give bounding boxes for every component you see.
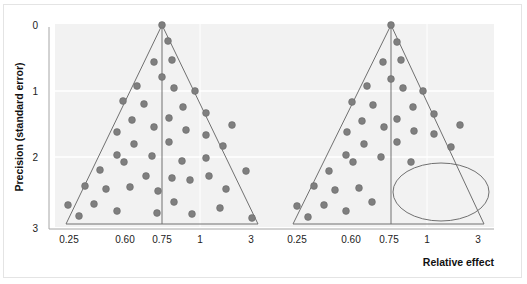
funnel-plot-chart: 0123 0.250.600.75130.250.600.7513 Precis… xyxy=(0,0,527,284)
study-point xyxy=(143,173,150,180)
x-tick-label: 0.75 xyxy=(152,234,172,245)
x-tick-label: 3 xyxy=(248,234,254,245)
y-axis: 0123 xyxy=(32,20,49,234)
study-point xyxy=(171,85,178,92)
study-point xyxy=(326,168,333,175)
study-point xyxy=(127,184,134,191)
study-point xyxy=(398,57,405,64)
study-point xyxy=(431,111,438,118)
study-point xyxy=(370,102,377,109)
plot-area xyxy=(55,24,494,227)
study-point xyxy=(192,88,199,95)
study-point xyxy=(431,131,438,138)
study-point xyxy=(97,167,104,174)
study-point xyxy=(343,208,350,215)
study-point xyxy=(220,143,227,150)
study-point xyxy=(411,128,418,135)
study-point xyxy=(114,129,121,136)
study-point xyxy=(229,122,236,129)
study-point xyxy=(410,104,417,111)
study-point xyxy=(151,124,158,131)
study-point xyxy=(187,177,194,184)
study-point xyxy=(249,215,256,222)
study-point xyxy=(344,129,351,136)
study-point xyxy=(369,199,376,206)
study-point xyxy=(243,168,250,175)
study-point xyxy=(321,202,328,209)
study-point xyxy=(76,213,83,220)
study-point xyxy=(381,124,388,131)
study-point xyxy=(165,38,172,45)
study-point xyxy=(166,139,173,146)
study-point xyxy=(82,183,89,190)
x-tick-label: 1 xyxy=(424,234,430,245)
study-point xyxy=(169,57,176,64)
x-axis: 0.250.600.75130.250.600.7513 xyxy=(49,229,494,245)
study-point xyxy=(171,199,178,206)
study-point xyxy=(343,152,350,159)
study-point xyxy=(114,152,121,159)
study-point xyxy=(91,201,98,208)
study-point xyxy=(180,104,187,111)
study-point xyxy=(400,85,407,92)
study-point xyxy=(154,210,161,217)
y-tick-label: 2 xyxy=(32,152,38,163)
study-point xyxy=(294,203,301,210)
study-point xyxy=(394,39,401,46)
study-point xyxy=(166,115,173,122)
x-tick-label: 0.60 xyxy=(115,234,135,245)
y-tick-label: 0 xyxy=(32,20,38,31)
study-point xyxy=(356,185,363,192)
x-tick-label: 0.25 xyxy=(59,234,79,245)
study-point xyxy=(189,211,196,218)
study-point xyxy=(359,118,366,125)
study-point xyxy=(114,208,121,215)
study-point xyxy=(332,187,339,194)
study-point xyxy=(134,83,141,90)
study-point xyxy=(141,101,148,108)
study-point xyxy=(203,110,210,117)
study-point xyxy=(388,76,395,83)
study-point xyxy=(169,175,176,182)
study-point xyxy=(203,155,210,162)
study-point xyxy=(159,74,166,81)
study-point xyxy=(149,153,156,160)
study-point xyxy=(223,186,230,193)
study-point xyxy=(361,141,368,148)
study-point xyxy=(131,141,138,148)
study-point xyxy=(159,22,166,29)
study-point xyxy=(350,159,357,166)
study-point xyxy=(203,132,210,139)
study-point xyxy=(217,205,224,212)
x-tick-label: 1 xyxy=(197,234,203,245)
study-point xyxy=(151,59,158,66)
study-point xyxy=(448,144,455,151)
study-point xyxy=(380,59,387,66)
study-point xyxy=(420,88,427,95)
study-point xyxy=(388,22,395,29)
study-point xyxy=(155,188,162,195)
study-point xyxy=(103,186,110,193)
study-point xyxy=(394,116,401,123)
study-point xyxy=(65,202,72,209)
x-tick-label: 0.60 xyxy=(341,234,361,245)
x-tick-label: 0.25 xyxy=(287,234,307,245)
y-tick-label: 1 xyxy=(32,86,38,97)
study-point xyxy=(457,122,464,129)
study-point xyxy=(129,117,136,124)
y-axis-title: Precision (standard error) xyxy=(13,63,25,192)
study-point xyxy=(120,98,127,105)
x-tick-label: 3 xyxy=(475,234,481,245)
study-point xyxy=(378,154,385,161)
study-point xyxy=(121,159,128,166)
study-point xyxy=(206,173,213,180)
x-axis-title: Relative effect xyxy=(423,256,495,268)
study-point xyxy=(179,158,186,165)
study-point xyxy=(311,183,318,190)
study-point xyxy=(408,159,415,166)
study-point xyxy=(183,127,190,134)
x-tick-label: 0.75 xyxy=(379,234,399,245)
study-point xyxy=(305,214,312,221)
study-point xyxy=(349,99,356,106)
study-point xyxy=(364,83,371,90)
